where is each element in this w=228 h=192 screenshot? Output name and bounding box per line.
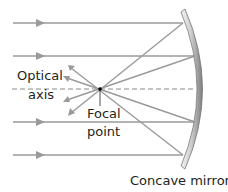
focal-point-label-line2: point [87, 125, 120, 139]
optical-axis-label-2: axis [28, 88, 54, 102]
arrowhead-icon [36, 118, 45, 126]
arrowhead-icon [63, 76, 70, 82]
focal-point-label-2: point [87, 125, 120, 139]
focal-point-label-line1: Focal [87, 107, 121, 121]
focal-point-label: Focal [87, 107, 121, 121]
arrowhead-icon [36, 52, 45, 60]
concave-mirror-label: Concave mirror [130, 174, 228, 188]
focal-point-dot [98, 87, 102, 91]
optical-axis-label-line1: Optical [17, 69, 63, 83]
reflected-ray-2 [67, 56, 195, 100]
concave-mirror-label-text: Concave mirror [130, 174, 228, 188]
arrowhead-icon [36, 151, 45, 159]
reflected-ray-1 [71, 23, 183, 113]
optical-axis-label-line2: axis [28, 88, 54, 102]
optical-axis-label: Optical [17, 69, 63, 83]
arrowhead-icon [63, 96, 70, 102]
arrowhead-icon [68, 108, 75, 116]
arrowhead-icon [36, 19, 45, 27]
